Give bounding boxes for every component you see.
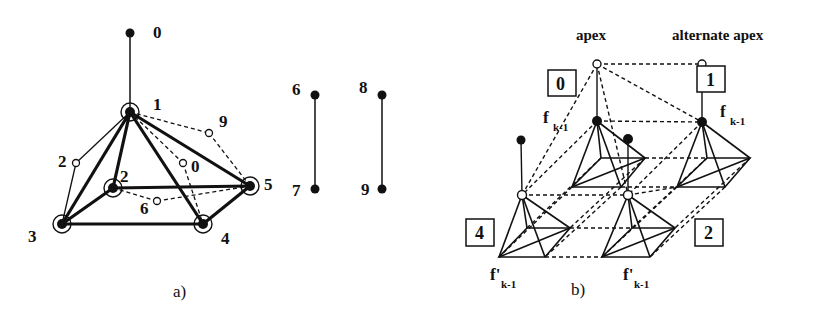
label-node-1: 1 [153,95,162,114]
label-node-2: 2 [120,167,129,186]
face-label-f: f [543,108,549,127]
face-label-sub-right: k-1 [730,115,745,127]
box-2-label: 2 [704,223,713,243]
label-node-2-open: 2 [58,152,67,171]
label-node-0: 0 [153,23,162,42]
label-node-9-open: 9 [219,112,228,131]
face-prime-label-right: f' [623,265,633,284]
apex-node [593,60,601,68]
label-edge-9: 9 [361,180,370,199]
label-node-3: 3 [28,227,37,246]
face-prime-label-left: f' [490,265,500,284]
label-node-5: 5 [264,175,273,194]
label-node-4: 4 [221,229,230,248]
label-node-6-open: 6 [140,199,149,218]
face-label-sub: k-1 [553,121,568,133]
diagram-canvas: 0 1 9 2 0 2 5 6 3 4 6 7 8 9 a) [0,0,817,315]
box-1-label: 1 [706,70,715,90]
label-node-0-open: 0 [191,157,200,176]
apex-label: apex [576,27,607,43]
box-0-label: 0 [556,74,565,94]
face-prime-sub-left: k-1 [501,278,516,290]
box-4-label: 4 [475,223,484,243]
label-edge-8: 8 [359,78,368,97]
face-prime-sub-right: k-1 [634,278,649,290]
label-edge-7: 7 [292,181,301,200]
label-edge-6: 6 [292,80,301,99]
node-0 [126,29,135,38]
face-label-f-right: f [720,102,726,121]
caption-a: a) [173,282,186,301]
alternate-apex-label: alternate apex [672,27,764,43]
caption-b: b) [571,280,585,299]
